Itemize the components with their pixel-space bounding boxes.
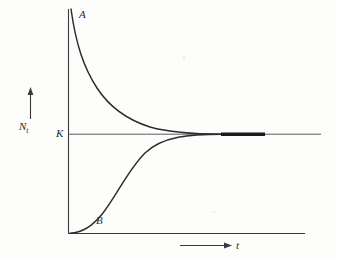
plot-svg [0,0,337,258]
y-axis-arrow [28,87,34,119]
curve-a-path [71,9,222,134]
curve-b-label: B [96,215,103,226]
scan-speck-artifact [183,56,185,59]
k-level-label: K [56,128,63,139]
y-axis-label-subscript: t [26,126,28,135]
y-axis-label: Nt [19,121,28,135]
x-axis-label: t [236,240,239,251]
figure-canvas: Nt K A B t [0,0,337,258]
curve-a-label: A [79,9,86,20]
scan-speck-artifact [213,211,215,213]
curve-b-path [70,134,222,233]
x-axis-arrow [180,243,232,249]
